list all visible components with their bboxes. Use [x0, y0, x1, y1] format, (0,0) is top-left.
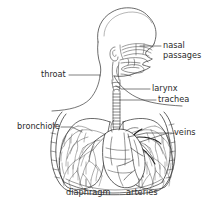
label-nasal-passages-line2: passages [163, 51, 201, 61]
trachea-tube [113, 91, 120, 133]
heart [103, 120, 145, 188]
head-outline [98, 8, 156, 77]
label-trachea: trachea [158, 95, 189, 105]
oral-cavity-detail [117, 58, 149, 76]
label-bronchiole: bronchiole [17, 122, 60, 132]
leader-bronchiole [61, 127, 82, 132]
larynx-detail [112, 80, 120, 91]
throat-pharynx [112, 62, 119, 80]
respiratory-system-diagram: nasal passages throat larynx trachea bro… [0, 0, 204, 212]
label-larynx: larynx [152, 84, 178, 94]
diagram-illustration [0, 0, 204, 212]
label-nasal-passages: nasal passages [163, 41, 201, 61]
label-diaphragm: diaphragm [66, 188, 110, 198]
label-arteries: arteries [126, 188, 158, 198]
label-veins: veins [174, 128, 196, 138]
label-throat: throat [41, 70, 66, 80]
